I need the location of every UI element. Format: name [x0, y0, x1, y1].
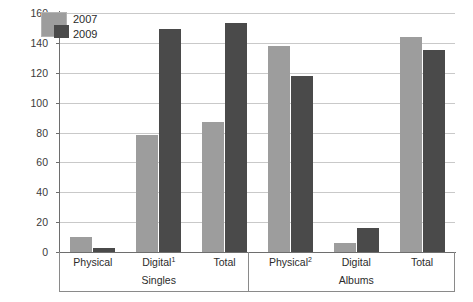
bar-2009-total	[423, 50, 445, 252]
bar-2009-digital	[159, 29, 181, 252]
bar-chart: 020406080100120140160 PhysicalDigital1To…	[0, 0, 473, 302]
bar-2009-digital	[357, 228, 379, 252]
group-label: Singles	[109, 274, 209, 286]
bar-2007-total	[202, 122, 224, 252]
chart-overlay: PhysicalDigital1TotalPhysical2DigitalTot…	[0, 0, 473, 302]
footnote-marker: 1	[171, 256, 175, 263]
bar-2009-total	[225, 23, 247, 252]
legend-label-2009: 2009	[73, 28, 97, 40]
bar-2007-digital	[136, 135, 158, 252]
bar-2007-digital	[334, 243, 356, 252]
legend-swatch-2009	[54, 25, 69, 38]
bar-2009-physical	[291, 76, 313, 252]
bar-2009-physical	[93, 248, 115, 252]
legend: 2007 2009	[41, 12, 161, 44]
legend-label-2007: 2007	[73, 13, 97, 25]
bar-2007-total	[400, 37, 422, 252]
bar-2007-physical	[70, 237, 92, 252]
bar-2007-physical	[268, 46, 290, 252]
category-label: Total	[377, 256, 467, 268]
group-label: Albums	[306, 274, 406, 286]
